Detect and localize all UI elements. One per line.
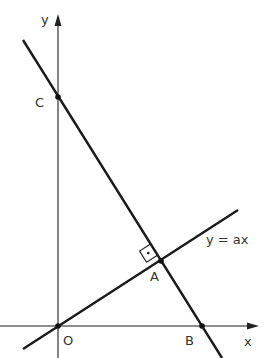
line-equation-label: y = ax bbox=[206, 232, 249, 247]
line-y-equals-ax bbox=[23, 210, 238, 349]
right-angle-marker bbox=[140, 244, 158, 262]
point-a-label: A bbox=[150, 269, 159, 284]
point-c-label: C bbox=[35, 95, 44, 110]
y-axis-arrow-icon bbox=[55, 14, 62, 26]
right-angle-dot-icon bbox=[147, 252, 150, 255]
point-b-label: B bbox=[185, 333, 194, 348]
x-axis-label: x bbox=[244, 334, 252, 349]
diagram-canvas: y x O B A C y = ax bbox=[0, 0, 271, 358]
x-axis-arrow-icon bbox=[247, 323, 259, 330]
point-o bbox=[55, 323, 61, 329]
point-c bbox=[55, 94, 61, 100]
point-a bbox=[158, 258, 164, 264]
line-cb bbox=[23, 40, 222, 358]
origin-label: O bbox=[63, 333, 73, 348]
y-axis-label: y bbox=[41, 12, 49, 27]
point-b bbox=[199, 323, 205, 329]
